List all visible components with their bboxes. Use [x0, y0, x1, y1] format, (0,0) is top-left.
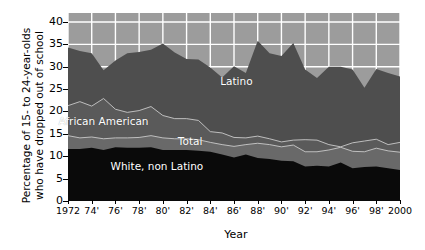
y-tick-label: 10	[35, 150, 63, 161]
x-tick-mark	[329, 200, 330, 204]
y-tick-mark	[63, 89, 68, 90]
x-tick-mark	[187, 200, 188, 204]
y-tick-label: 15	[35, 128, 63, 139]
x-tick-label: 88'	[250, 205, 265, 216]
chart-figure: Percentage of 15- to 24-year-olds who ha…	[0, 0, 425, 250]
x-tick-mark	[305, 200, 306, 204]
x-tick-label: 92'	[298, 205, 313, 216]
x-tick-label: 76'	[108, 205, 123, 216]
x-tick-mark	[115, 200, 116, 204]
y-tick-mark	[63, 156, 68, 157]
x-tick-mark	[163, 200, 164, 204]
x-tick-label: 90'	[274, 205, 289, 216]
y-tick-mark	[63, 67, 68, 68]
x-tick-mark	[68, 200, 69, 204]
y-tick-mark	[63, 44, 68, 45]
x-tick-mark	[258, 200, 259, 204]
series-label-total: Total	[178, 135, 203, 147]
x-tick-label: 1972	[56, 205, 80, 216]
x-tick-mark	[376, 200, 377, 204]
x-tick-label: 98'	[369, 205, 384, 216]
series-label-african-american: African American	[59, 115, 149, 127]
y-tick-mark	[63, 179, 68, 180]
x-tick-mark	[234, 200, 235, 204]
x-tick-mark	[353, 200, 354, 204]
x-tick-mark	[92, 200, 93, 204]
y-tick-mark	[63, 22, 68, 23]
stacked-area-svg	[68, 13, 400, 201]
y-tick-label: 25	[35, 83, 63, 94]
x-tick-label: 82'	[179, 205, 194, 216]
y-tick-label: 5	[35, 173, 63, 184]
x-tick-label: 80'	[155, 205, 170, 216]
x-tick-label: 84'	[203, 205, 218, 216]
x-tick-label: 86'	[227, 205, 242, 216]
x-tick-label: 96'	[345, 205, 360, 216]
y-tick-mark	[63, 134, 68, 135]
y-tick-label: 35	[35, 38, 63, 49]
y-tick-label: 40	[35, 16, 63, 27]
y-tick-mark	[63, 201, 68, 202]
x-tick-mark	[210, 200, 211, 204]
series-label-white-non-latino: White, non Latino	[111, 160, 204, 172]
x-axis-label: Year	[70, 228, 402, 241]
x-tick-label: 2000	[388, 205, 412, 216]
x-tick-label: 78'	[132, 205, 147, 216]
x-tick-label: 74'	[84, 205, 99, 216]
series-label-latino: Latino	[220, 75, 252, 87]
y-tick-label: 30	[35, 61, 63, 72]
x-tick-label: 94'	[321, 205, 336, 216]
y-tick-mark	[63, 111, 68, 112]
plot-area	[68, 13, 400, 201]
x-tick-mark	[139, 200, 140, 204]
x-tick-mark	[281, 200, 282, 204]
x-tick-mark	[400, 200, 401, 204]
